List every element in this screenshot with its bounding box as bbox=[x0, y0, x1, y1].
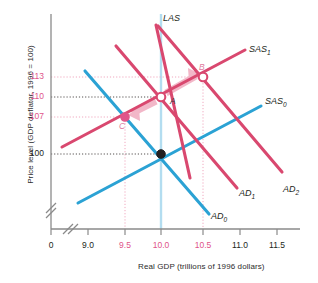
point-marker-B[interactable] bbox=[199, 73, 208, 82]
x-tick-label-11-5: 11.5 bbox=[262, 240, 292, 250]
curve-label-AD2-text: AD bbox=[283, 184, 296, 194]
point-marker-equilibrium[interactable] bbox=[157, 150, 166, 159]
x-tick-label-10-5: 10.5 bbox=[188, 240, 218, 250]
point-marker-C[interactable] bbox=[121, 113, 129, 121]
y-tick-label-110: 110 bbox=[18, 91, 44, 101]
curve-label-SAS1: SAS1 bbox=[249, 44, 271, 56]
curve-label-LAS-text: LAS bbox=[163, 13, 180, 23]
curve-label-SAS0: SAS0 bbox=[265, 96, 287, 108]
x-tick-label-9-5: 9.5 bbox=[110, 240, 140, 250]
point-label-C: C bbox=[119, 121, 125, 131]
x-tick-label-origin: 0 bbox=[36, 240, 66, 250]
y-tick-label-100: 100 bbox=[18, 148, 44, 158]
curve-label-SAS1-sub: 1 bbox=[267, 49, 271, 56]
curve-label-AD1-sub: 1 bbox=[252, 193, 256, 200]
curve-label-AD0-sub: 0 bbox=[224, 216, 228, 223]
x-tick-label-9-0: 9.0 bbox=[73, 240, 103, 250]
curve-label-AD0: AD0 bbox=[211, 211, 227, 223]
y-tick-label-113: 113 bbox=[18, 71, 44, 81]
point-label-A: A bbox=[170, 96, 176, 106]
curve-label-SAS1-text: SAS bbox=[249, 44, 267, 54]
x-axis-title: Real GDP (trillions of 1996 dollars) bbox=[138, 262, 265, 271]
curve-label-LAS: LAS bbox=[163, 13, 180, 23]
as-ad-chart-figure: Price level (GDP deflator, 1996 = 100) R… bbox=[0, 0, 318, 283]
curve-label-AD1-text: AD bbox=[239, 188, 252, 198]
curve-label-AD2-sub: 2 bbox=[296, 189, 300, 196]
x-axis-ticks bbox=[51, 229, 277, 235]
curve-label-AD0-text: AD bbox=[211, 211, 224, 221]
curve-SAS0 bbox=[78, 106, 261, 203]
x-tick-label-10-0: 10.0 bbox=[146, 240, 176, 250]
curve-label-SAS0-text: SAS bbox=[265, 96, 283, 106]
x-tick-label-11-0: 11.0 bbox=[225, 240, 255, 250]
curve-label-AD1: AD1 bbox=[239, 188, 255, 200]
curve-label-SAS0-sub: 0 bbox=[283, 101, 287, 108]
curve-label-AD2: AD2 bbox=[283, 184, 299, 196]
point-label-B: B bbox=[199, 62, 205, 72]
point-marker-A[interactable] bbox=[157, 93, 166, 102]
y-tick-label-107: 107 bbox=[18, 111, 44, 121]
